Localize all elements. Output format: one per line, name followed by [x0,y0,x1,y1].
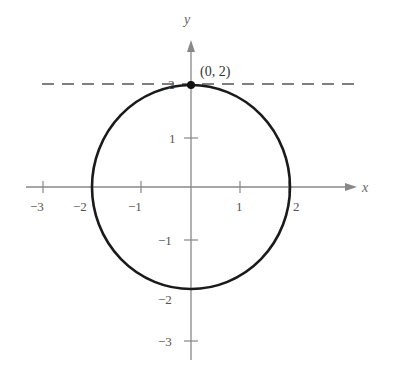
y-tick-label: −2 [158,292,172,307]
x-axis-arrow-icon [345,183,357,191]
x-tick-label: −1 [128,199,142,214]
point-label: (0, 2) [200,64,231,80]
x-tick-label: 2 [293,199,300,214]
x-tick-label: −2 [73,199,87,214]
y-axis-arrow-icon [187,40,195,52]
y-tick-label: 1 [169,131,176,146]
circle-tangent-diagram: (0, 2) y x −3 −2 −1 1 2 2 1 −1 −2 −3 [0,0,398,369]
y-axis-label: y [182,12,191,27]
x-tick-label: −3 [30,199,44,214]
x-axis-label: x [361,180,369,195]
y-tick-label: −3 [158,334,172,349]
x-tick-label: 1 [236,199,243,214]
y-tick-label: 2 [168,77,175,92]
point-0-2 [187,81,195,89]
y-tick-label: −1 [158,233,172,248]
